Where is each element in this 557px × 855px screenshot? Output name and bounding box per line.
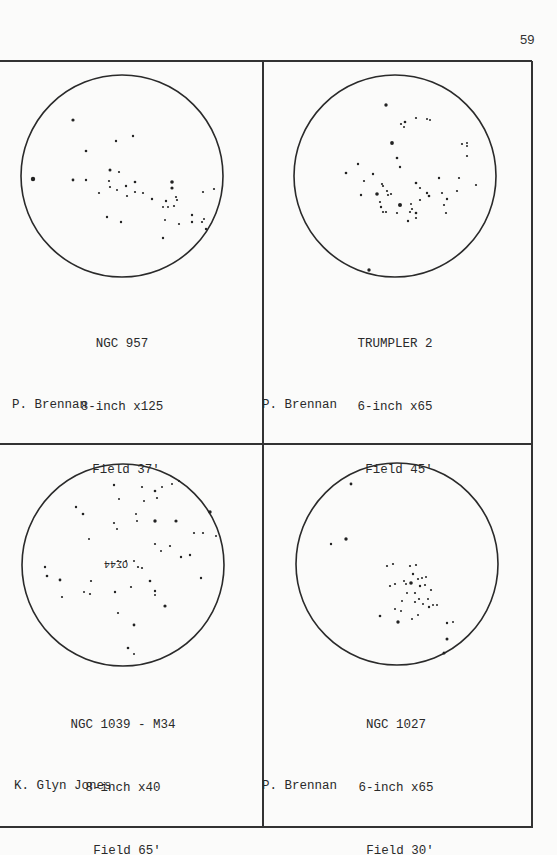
star-dot <box>98 192 100 194</box>
star-dot <box>82 513 85 516</box>
star-dot <box>134 181 137 184</box>
star-dot <box>85 150 88 153</box>
star-dot <box>151 198 153 200</box>
star-dot <box>135 513 137 515</box>
star-dot <box>379 615 382 618</box>
star-dot <box>163 604 166 607</box>
object-name: NGC 957 <box>62 334 182 355</box>
star-dot <box>446 638 449 641</box>
star-dot <box>201 221 203 223</box>
star-dot <box>415 217 417 219</box>
telescope-spec: 6-inch x65 <box>336 778 456 799</box>
star-dot <box>136 520 138 522</box>
field-size: Field 45' <box>335 460 455 481</box>
star-dot <box>367 268 370 271</box>
star-dot <box>415 182 418 185</box>
star-dot <box>466 155 468 157</box>
star-dot <box>382 211 384 213</box>
star-dot <box>426 192 428 194</box>
star-dot <box>116 189 118 191</box>
star-dot <box>417 578 419 580</box>
star-dot <box>405 583 407 585</box>
star-dot <box>390 141 394 145</box>
star-dot <box>446 198 448 200</box>
star-dot <box>114 591 116 593</box>
field-circle <box>294 75 496 277</box>
star-dot <box>106 216 108 218</box>
star-dot <box>418 598 420 600</box>
star-dot <box>141 567 143 569</box>
star-dot <box>154 543 156 545</box>
star-dot <box>357 163 359 165</box>
star-dot <box>205 228 207 230</box>
star-dot <box>396 212 398 214</box>
star-dot <box>443 652 446 655</box>
star-dot <box>414 592 416 594</box>
star-dot <box>208 510 211 513</box>
star-dot <box>394 583 396 585</box>
star-dot <box>154 590 156 592</box>
star-dot <box>390 193 392 195</box>
panel-caption-ngc-957: NGC 957 8-inch x125 Field 37' <box>62 292 182 502</box>
star-dot <box>85 179 87 181</box>
star-dot <box>404 121 407 124</box>
observer-name: P. Brennan <box>262 779 337 793</box>
star-dot <box>115 140 117 142</box>
star-dot <box>202 191 204 193</box>
star-dot <box>386 190 388 192</box>
star-dot <box>202 532 204 534</box>
star-dot <box>427 598 429 600</box>
star-dot <box>475 184 477 186</box>
star-dot <box>142 192 144 194</box>
star-dot <box>189 554 191 556</box>
telescope-spec: 6-inch x65 <box>335 397 455 418</box>
object-name: NGC 1027 <box>336 715 456 736</box>
star-dot <box>415 564 417 566</box>
star-dot <box>137 566 139 568</box>
panel-caption-ngc-1027: NGC 1027 6-inch x65 Field 30' <box>336 673 456 855</box>
star-dot <box>118 171 120 173</box>
star-dot <box>400 610 402 612</box>
star-dot <box>363 180 365 182</box>
panel-caption-trumpler-2: TRUMPLER 2 6-inch x65 Field 45' <box>335 292 455 502</box>
star-dot <box>401 600 403 602</box>
star-dot <box>160 550 162 552</box>
star-dot <box>409 211 411 213</box>
star-dot <box>61 596 63 598</box>
star-dot <box>109 186 111 188</box>
star-dot <box>162 206 164 208</box>
star-dot <box>411 208 413 210</box>
star-dot <box>120 221 122 223</box>
star-dot <box>193 532 195 534</box>
star-dot <box>379 201 381 203</box>
star-dot <box>428 195 431 198</box>
star-dot <box>154 594 156 596</box>
star-dot <box>127 647 130 650</box>
star-dot <box>162 237 164 239</box>
star-dot <box>419 585 421 587</box>
star-dot <box>412 573 414 575</box>
star-dot <box>430 589 432 591</box>
star-dot <box>409 565 411 567</box>
star-dot <box>410 203 412 205</box>
star-dot <box>458 177 460 179</box>
star-dot <box>31 177 35 181</box>
star-dot <box>116 528 118 530</box>
star-dot <box>375 192 379 196</box>
star-dot <box>446 622 448 624</box>
star-dot <box>173 205 175 207</box>
star-dot <box>380 206 382 208</box>
observer-name: P. Brennan <box>262 398 337 412</box>
star-dot <box>421 577 423 579</box>
star-dot <box>432 604 434 606</box>
star-dot <box>445 212 447 214</box>
star-dot <box>71 118 74 121</box>
eyepiece-field-1 <box>21 75 223 277</box>
star-dot <box>72 179 75 182</box>
field-size: Field 37' <box>62 460 182 481</box>
star-dot <box>466 145 468 147</box>
star-dot <box>174 519 177 522</box>
star-dot <box>398 203 402 207</box>
star-dot <box>153 519 156 522</box>
star-dot <box>117 612 119 614</box>
